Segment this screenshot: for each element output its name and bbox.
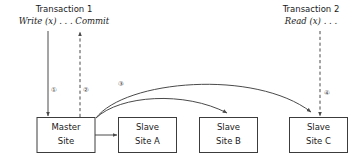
transaction-1-operation: Write (x) . . . Commit — [19, 16, 110, 26]
step-3-number: ③ — [118, 80, 124, 88]
transaction-1-title: Transaction 1 — [35, 4, 93, 14]
master-site-label-line1: Master — [51, 122, 81, 132]
step-4-number: ④ — [324, 89, 330, 97]
step-1-number: ① — [51, 86, 57, 94]
replication-diagram: Transaction 1 Write (x) . . . Commit Tra… — [0, 0, 358, 161]
transaction-2-title: Transaction 2 — [282, 4, 340, 14]
master-site-label-line2: Site — [58, 136, 74, 146]
step-3-arrow-slave-c — [96, 84, 311, 118]
transaction-2-operation: Read (x) . . . — [284, 16, 337, 26]
slave-site-b-label-line1: Slave — [217, 122, 240, 132]
slave-site-c-label-line1: Slave — [307, 122, 330, 132]
step-3-arrow-slave-b — [96, 98, 227, 118]
slave-site-c-label-line2: Site C — [306, 136, 331, 146]
slave-site-a-label-line2: Site A — [135, 136, 160, 146]
step-2-number: ② — [83, 86, 89, 94]
slave-site-a-label-line1: Slave — [136, 122, 159, 132]
slave-site-b-label-line2: Site B — [216, 136, 241, 146]
